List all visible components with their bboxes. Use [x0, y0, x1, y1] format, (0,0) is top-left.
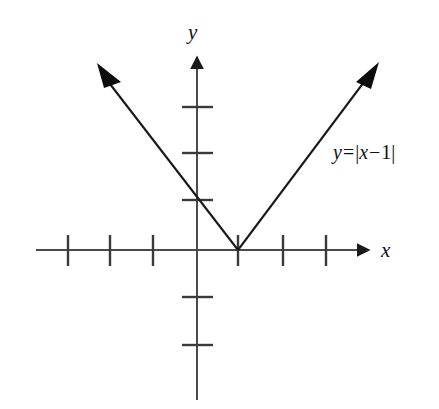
equation-inner-var: x	[359, 141, 368, 163]
equation-annotation: y=|x−1|	[333, 142, 395, 162]
function-left-branch	[110, 84, 238, 250]
equation-constant: 1	[381, 141, 391, 163]
equation-minus: −	[368, 141, 381, 163]
absolute-value-graph-figure: y x y=|x−1|	[0, 0, 439, 409]
equation-equals: =	[342, 141, 355, 163]
y-axis-label: y	[188, 22, 197, 43]
coordinate-plane	[0, 0, 439, 409]
y-axis-group	[182, 68, 213, 400]
equation-lhs: y	[333, 141, 342, 163]
function-right-branch	[238, 82, 364, 250]
function-left-arrowhead	[97, 63, 121, 88]
x-axis-label: x	[381, 240, 390, 261]
function-right-arrowhead	[356, 62, 379, 89]
equation-close-bar: |	[391, 141, 395, 163]
